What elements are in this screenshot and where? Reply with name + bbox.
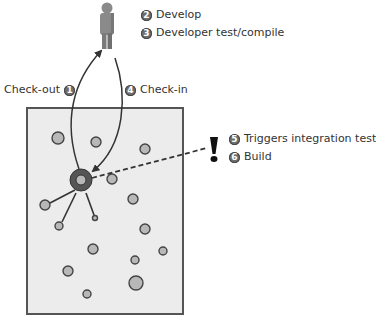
repository-node [128,194,138,204]
repository-node [129,276,143,290]
repository-node [83,290,91,298]
repository-node [40,200,50,210]
repository-node [52,132,64,144]
repository-node [159,247,167,255]
repository-node [140,224,150,234]
central-hub-node [70,169,92,191]
step-1-number-icon: 1 [64,85,75,96]
step-6-number-icon: 6 [229,152,240,163]
step-3-number-icon: 3 [141,28,152,39]
repository-node [107,174,117,184]
repository-node [93,216,98,221]
repository-node [140,144,150,154]
step-3-label: 3 Developer test/compile [141,26,284,40]
step-2-text: Develop [156,8,201,22]
repository-node [63,266,73,276]
repository-node [55,222,63,230]
step-1-text: Check-out [4,83,60,97]
step-5-text: Triggers integration test [244,132,376,146]
exclamation-icon [210,137,218,162]
repository-node [131,256,139,264]
repository-node [88,244,98,254]
step-4-text: Check-in [140,83,188,97]
step-3-text: Developer test/compile [156,26,284,40]
step-2-number-icon: 2 [141,10,152,21]
step-1-label: Check-out 1 [4,83,75,97]
repository-box [27,108,183,314]
step-5-number-icon: 5 [229,134,240,145]
step-4-label: 4 Check-in [125,83,188,97]
step-6-text: Build [244,150,272,164]
step-6-label: 6 Build [229,150,272,164]
step-5-label: 5 Triggers integration test [229,132,376,146]
step-4-number-icon: 4 [125,85,136,96]
developer-person-icon [100,3,114,50]
step-2-label: 2 Develop [141,8,201,22]
repository-node [91,137,101,147]
